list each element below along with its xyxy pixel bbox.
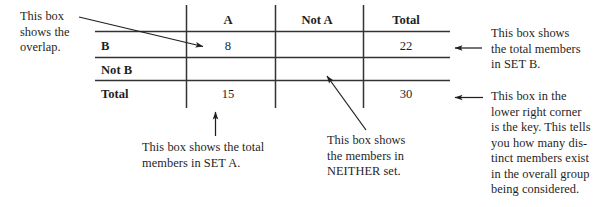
annotation-overlap-line-2: shows the xyxy=(20,25,70,41)
annotation-total-b-line-2: the total members xyxy=(491,42,581,58)
cell-total-total: 30 xyxy=(400,87,413,103)
annotation-key-line-7: being considered. xyxy=(491,182,579,198)
column-header-not-a: Not A xyxy=(301,13,332,29)
annotation-neither-line-2: the members in xyxy=(327,149,404,165)
annotation-total-a-line-1: This box shows the total xyxy=(142,140,264,156)
cell-b-a: 8 xyxy=(225,39,231,55)
table-vertical-rules xyxy=(187,5,364,108)
row-label-b: B xyxy=(101,39,109,55)
annotation-key-line-2: lower right corner xyxy=(491,105,581,121)
neither-arrow xyxy=(327,76,366,130)
annotation-key-line-6: in the overall group xyxy=(491,167,589,183)
annotation-overlap-line-3: overlap. xyxy=(20,40,61,56)
column-header-total: Total xyxy=(392,13,420,29)
annotation-overlap-line-1: This box xyxy=(20,9,64,25)
column-header-a: A xyxy=(223,13,232,29)
row-label-total: Total xyxy=(101,87,129,103)
two-way-table-figure: A Not A Total B 8 22 Not B Total 15 30 T… xyxy=(0,0,607,207)
row-label-not-b: Not B xyxy=(101,63,132,79)
annotation-total-a-line-2: members in SET A. xyxy=(142,156,240,172)
annotation-neither-line-3: NEITHER set. xyxy=(327,164,401,180)
annotation-total-b-line-3: in SET B. xyxy=(491,57,540,73)
annotation-key-line-1: This box in the xyxy=(491,89,566,105)
annotation-key-line-5: tinct members exist xyxy=(491,151,589,167)
annotation-key-line-4: you how many dis- xyxy=(491,136,587,152)
table-horizontal-rules xyxy=(95,32,450,81)
annotation-total-b-line-1: This box shows xyxy=(491,26,570,42)
annotation-key-line-3: is the key. This tells xyxy=(491,120,591,136)
cell-total-a: 15 xyxy=(222,87,235,103)
annotation-neither-line-1: This box shows xyxy=(327,133,406,149)
cell-b-total: 22 xyxy=(400,39,413,55)
